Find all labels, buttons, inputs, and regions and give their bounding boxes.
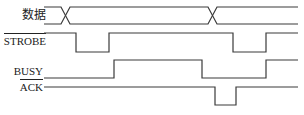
waveform-busy [44,60,298,78]
waveform-ack [44,87,298,105]
waveform-strobe [44,33,298,52]
timing-waveforms [0,0,304,115]
waveform-data [44,7,298,24]
